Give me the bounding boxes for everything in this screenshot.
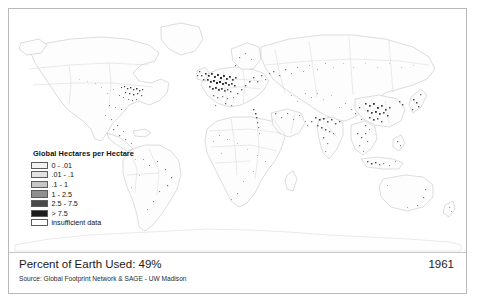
legend-item: .01 - .1 (31, 170, 151, 180)
legend-title: Global Hectares per Hectare (33, 149, 151, 158)
legend-item: insufficient data (31, 218, 151, 228)
legend-swatch-4 (31, 200, 48, 207)
legend-label-2: .1 - 1 (52, 180, 68, 189)
legend-label-4: 2.5 - 7.5 (52, 199, 78, 208)
source-credit: Source: Global Footprint Network & SAGE … (19, 275, 186, 282)
legend-swatch-6 (31, 219, 48, 226)
map-legend: Global Hectares per Hectare 0 - .01 .01 … (31, 149, 151, 228)
legend-label-0: 0 - .01 (52, 161, 72, 170)
legend-label-3: 1 - 2.5 (52, 190, 72, 199)
legend-swatch-2 (31, 181, 48, 188)
percent-of-earth-used-label: Percent of Earth Used: 49% (19, 258, 162, 270)
legend-label-6: insufficient data (52, 218, 102, 227)
map-figure-frame: Global Hectares per Hectare 0 - .01 .01 … (8, 8, 467, 294)
legend-swatch-3 (31, 190, 48, 197)
legend-swatch-5 (31, 210, 48, 217)
legend-item: > 7.5 (31, 208, 151, 218)
legend-item: 2.5 - 7.5 (31, 199, 151, 209)
legend-label-1: .01 - .1 (52, 170, 74, 179)
legend-label-5: > 7.5 (52, 209, 68, 218)
figure-footer: Percent of Earth Used: 49% 1961 Source: … (9, 253, 466, 293)
legend-item: 1 - 2.5 (31, 189, 151, 199)
legend-item: .1 - 1 (31, 180, 151, 190)
legend-swatch-0 (31, 162, 48, 169)
legend-item: 0 - .01 (31, 161, 151, 171)
year-label: 1961 (428, 258, 454, 270)
world-map-panel: Global Hectares per Hectare 0 - .01 .01 … (9, 9, 466, 252)
legend-swatch-1 (31, 171, 48, 178)
